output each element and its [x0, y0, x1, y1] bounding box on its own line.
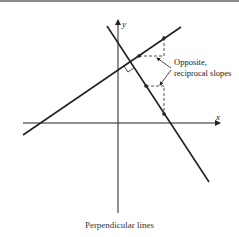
- negative-slope-line: [107, 26, 209, 182]
- y-axis-label: y: [121, 19, 126, 29]
- annotation-text-line2: reciprocal slopes: [174, 68, 231, 78]
- x-axis-label: x: [215, 112, 220, 122]
- annotation-arrow-upper: [157, 58, 171, 68]
- diagram-caption: Perpendicular lines: [0, 220, 239, 230]
- positive-slope-line: [23, 27, 181, 135]
- annotation-text-line1: Opposite,: [174, 57, 207, 67]
- point-marker: [137, 54, 141, 58]
- point-marker: [162, 112, 166, 116]
- annotation-arrow-lower: [160, 70, 171, 85]
- point-marker: [144, 84, 148, 88]
- right-angle-mark: [124, 66, 134, 72]
- perpendicular-lines-diagram: x y Opposite, reciprocal slopes: [0, 0, 239, 237]
- point-marker: [162, 36, 166, 40]
